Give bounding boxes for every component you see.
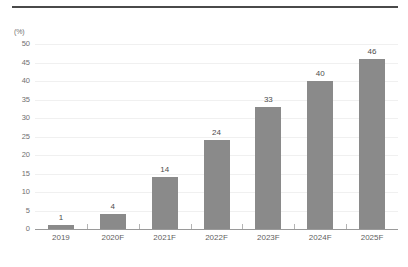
- x-axis-tick-mark: [87, 224, 88, 229]
- gridline: [35, 44, 398, 45]
- x-axis-category-label: 2022F: [205, 233, 228, 242]
- bar-item[interactable]: 4: [100, 203, 126, 229]
- x-axis-line: [35, 229, 398, 230]
- x-axis-tick-mark: [294, 224, 295, 229]
- x-axis-tick-mark: [191, 224, 192, 229]
- gridline: [35, 100, 398, 101]
- y-axis-tick-label: 10: [22, 188, 30, 196]
- y-axis-tick-label: 25: [22, 133, 30, 141]
- bar-item[interactable]: 33: [255, 96, 281, 229]
- y-axis-tick-labels: 05101520253035404550: [12, 44, 30, 229]
- y-axis-tick-label: 50: [22, 40, 30, 48]
- bar-item[interactable]: 14: [152, 166, 178, 229]
- bar-rect[interactable]: [255, 107, 281, 229]
- x-axis-category-label: 2025F: [361, 233, 384, 242]
- y-axis-tick-label: 45: [22, 59, 30, 67]
- x-axis-category-label: 2020F: [101, 233, 124, 242]
- gridline: [35, 63, 398, 64]
- y-axis-tick-label: 35: [22, 96, 30, 104]
- bar-rect[interactable]: [307, 81, 333, 229]
- x-axis-category-label: 2024F: [309, 233, 332, 242]
- bar-rect[interactable]: [100, 214, 126, 229]
- x-axis-tick-mark: [346, 224, 347, 229]
- y-axis-tick-label: 15: [22, 170, 30, 178]
- bar-rect[interactable]: [152, 177, 178, 229]
- bar-item[interactable]: 24: [204, 129, 230, 229]
- y-axis-tick-label: 5: [26, 207, 30, 215]
- bar-item[interactable]: 46: [359, 48, 385, 229]
- bar-rect[interactable]: [359, 59, 385, 229]
- x-axis-category-label: 2021F: [153, 233, 176, 242]
- x-axis-tick-mark: [242, 224, 243, 229]
- y-axis-tick-label: 0: [26, 225, 30, 233]
- gridline: [35, 118, 398, 119]
- bar-item[interactable]: 40: [307, 70, 333, 229]
- bar-value-label: 1: [59, 214, 63, 222]
- bar-value-label: 33: [264, 96, 273, 104]
- y-axis-tick-label: 30: [22, 114, 30, 122]
- bar-chart-figure: (%) 05101520253035404550 141424334046 20…: [0, 0, 408, 267]
- bar-value-label: 24: [212, 129, 221, 137]
- x-axis-tick-mark: [139, 224, 140, 229]
- bar-rect[interactable]: [204, 140, 230, 229]
- bar-value-label: 40: [316, 70, 325, 78]
- x-axis-category-labels: 20192020F2021F2022F2023F2024F2025F: [35, 233, 398, 249]
- bar-value-label: 4: [111, 203, 115, 211]
- plot-area: 141424334046: [35, 44, 398, 229]
- x-axis-category-label: 2019: [52, 233, 70, 242]
- y-axis-tick-label: 20: [22, 151, 30, 159]
- y-axis-tick-label: 40: [22, 77, 30, 85]
- bar-value-label: 46: [368, 48, 377, 56]
- bar-item[interactable]: 1: [48, 214, 74, 229]
- gridline: [35, 81, 398, 82]
- y-axis-unit-label: (%): [14, 28, 24, 35]
- bar-value-label: 14: [160, 166, 169, 174]
- x-axis-category-label: 2023F: [257, 233, 280, 242]
- top-divider-rule: [12, 6, 398, 8]
